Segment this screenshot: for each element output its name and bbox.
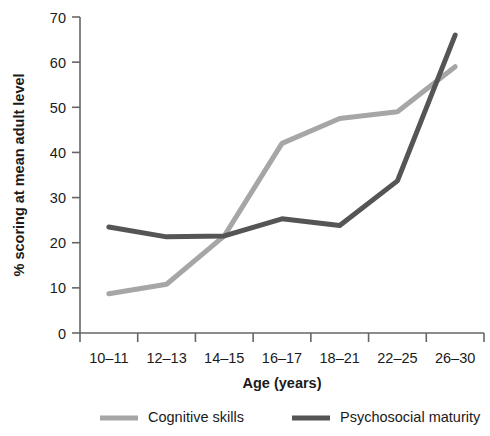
legend-label: Cognitive skills — [148, 409, 244, 425]
x-axis-title: Age (years) — [243, 375, 322, 391]
x-tick-label: 18–21 — [320, 350, 360, 366]
x-tick-label: 12–13 — [146, 350, 186, 366]
y-tick-label: 20 — [50, 235, 66, 251]
y-tick-label: 70 — [50, 10, 66, 26]
x-axis-tick-labels: 10–1112–1314–1516–1718–2122–2526–30 — [89, 350, 475, 366]
line-chart: 010203040506070 10–1112–1314–1516–1718–2… — [0, 0, 490, 436]
y-tick-label: 10 — [50, 280, 66, 296]
y-tick-label: 0 — [58, 326, 66, 342]
legend-label: Psychosocial maturity — [340, 409, 481, 425]
x-tick-label: 16–17 — [262, 350, 302, 366]
data-series-layer — [109, 35, 455, 294]
x-tick-label: 22–25 — [377, 350, 417, 366]
x-tick-label: 14–15 — [204, 350, 244, 366]
y-axis-tick-labels: 010203040506070 — [50, 10, 66, 342]
y-axis-ticks — [72, 17, 80, 333]
y-tick-label: 40 — [50, 145, 66, 161]
y-axis-title: % scoring at mean adult level — [11, 73, 27, 276]
y-tick-label: 50 — [50, 100, 66, 116]
series-line-cognitive-skills — [109, 67, 455, 294]
chart-canvas: 010203040506070 10–1112–1314–1516–1718–2… — [0, 0, 490, 436]
legend: Cognitive skillsPsychosocial maturity — [100, 409, 481, 425]
x-tick-label: 26–30 — [435, 350, 475, 366]
x-tick-label: 10–11 — [89, 350, 128, 366]
x-axis-ticks — [80, 333, 484, 342]
y-tick-label: 30 — [50, 190, 66, 206]
y-tick-label: 60 — [50, 55, 66, 71]
series-line-psychosocial-maturity — [109, 35, 455, 237]
